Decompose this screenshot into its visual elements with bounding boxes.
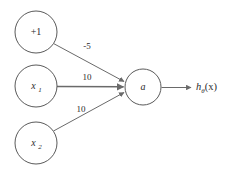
weight-label-bias: -5 [83,41,91,51]
node-input-x1[interactable] [15,65,57,107]
output-argument: (x) [205,81,218,93]
node-input-x1-subscript: 1 [38,86,42,94]
edge-x2-to-a [54,93,125,132]
node-input-x2-subscript: 2 [38,143,42,151]
diagram-canvas: +1 x 1 x 2 a -5 10 10 hθ(x) [0,0,233,178]
node-input-x1-label: x [30,80,36,91]
node-bias-label: +1 [31,26,42,37]
neural-network-diagram: +1 x 1 x 2 a -5 10 10 hθ(x) [0,0,233,178]
node-input-x2[interactable] [15,122,57,164]
node-activation-a-label: a [141,81,146,92]
node-input-x2-label: x [30,137,36,148]
weight-label-x2: 10 [77,104,87,114]
output-hypothesis-label: hθ(x) [196,81,217,94]
weight-label-x1: 10 [83,72,93,82]
